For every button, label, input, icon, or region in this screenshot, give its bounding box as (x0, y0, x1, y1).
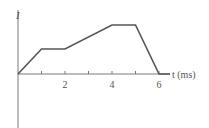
x-tick-label-2: 2 (63, 79, 68, 90)
x-axis-label: t (ms) (172, 69, 196, 81)
current-curve (18, 25, 170, 74)
current-vs-time-diagram: I t (ms) 2 4 6 (0, 0, 209, 128)
y-axis-label: I (15, 9, 21, 21)
x-tick-label-6: 6 (157, 79, 162, 90)
x-tick-label-4: 4 (110, 79, 115, 90)
